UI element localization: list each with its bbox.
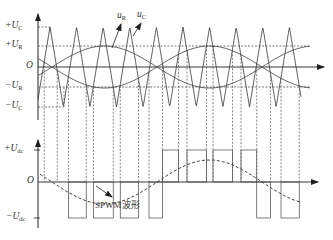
label-carrier-wave: uC [137, 10, 146, 21]
label-minus-ur: −UR [5, 81, 23, 92]
label-origin-lower: O [27, 176, 34, 186]
label-reference-wave: uR [117, 11, 126, 22]
lower-plot [34, 140, 318, 228]
label-plus-udc: +Udc [4, 144, 23, 155]
spwm-diagram: +UC +UR O −UR −UC uR uC +Udc O −Udc SPWM… [0, 0, 333, 240]
label-origin-upper: O [26, 61, 33, 71]
label-plus-uc: +UC [5, 21, 23, 32]
label-plus-ur: +UR [5, 40, 23, 51]
spwm-waveform-svg [0, 0, 333, 240]
label-minus-udc: −Udc [6, 212, 25, 223]
spwm-waveform-caption: SPWM波形 [95, 201, 140, 210]
label-minus-uc: −UC [5, 101, 23, 112]
